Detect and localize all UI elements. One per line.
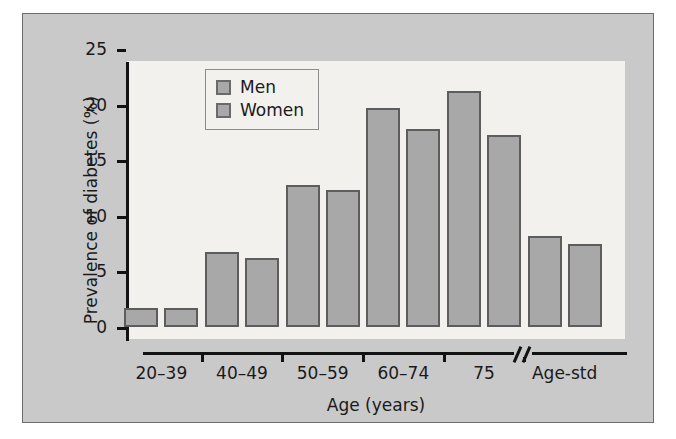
legend-label-women: Women [240, 102, 304, 119]
bar-women-4 [487, 135, 521, 327]
y-axis-tick [117, 327, 126, 330]
x-axis-title: Age (years) [127, 395, 625, 415]
bar-men-3 [366, 108, 400, 327]
x-axis-line [143, 352, 627, 355]
bar-women-1 [245, 258, 279, 327]
legend-swatch-women [216, 103, 231, 118]
legend-swatch-men [216, 80, 231, 95]
bar-men-5 [528, 236, 562, 327]
y-axis-tick [117, 160, 126, 163]
legend: Men Women [205, 69, 319, 130]
bar-men-1 [205, 252, 239, 327]
x-axis-separator [362, 352, 365, 362]
x-axis-separator [281, 352, 284, 362]
y-axis-tick [117, 216, 126, 219]
x-axis-separator [443, 352, 446, 362]
figure-card: 0510152025 Prevalence of diabetes (%) 20… [22, 13, 654, 423]
bar-women-2 [326, 190, 360, 327]
y-axis-tick [117, 271, 126, 274]
legend-label-men: Men [240, 79, 276, 96]
bar-women-5 [568, 244, 602, 327]
figure-container: 0510152025 Prevalence of diabetes (%) 20… [0, 0, 676, 439]
y-axis-title: Prevalence of diabetes (%) [81, 80, 101, 340]
y-axis-tick-label: 25 [67, 41, 107, 58]
legend-item-men: Men [216, 76, 304, 99]
bar-women-3 [406, 129, 440, 327]
x-axis-category-label: Age-std [505, 365, 625, 382]
bar-women-0 [164, 308, 198, 327]
bar-men-4 [447, 91, 481, 327]
bar-men-0 [124, 308, 158, 327]
y-axis-tick [117, 105, 126, 108]
legend-item-women: Women [216, 99, 304, 122]
bar-men-2 [286, 185, 320, 327]
x-axis-separator [201, 352, 204, 362]
y-axis-tick [117, 49, 126, 52]
y-axis-line [126, 62, 129, 341]
